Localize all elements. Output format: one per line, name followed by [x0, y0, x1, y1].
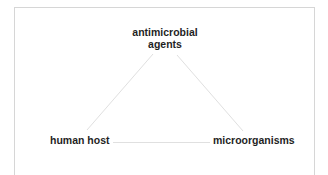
edge-agents-host: [87, 54, 153, 130]
node-microorganisms: microorganisms: [213, 134, 295, 146]
node-label-line1: antimicrobial: [125, 26, 205, 38]
node-label-line2: agents: [125, 38, 205, 50]
node-antimicrobial-agents: antimicrobial agents: [125, 26, 205, 50]
node-human-host: human host: [50, 134, 110, 146]
edge-agents-microorganisms: [177, 55, 243, 131]
